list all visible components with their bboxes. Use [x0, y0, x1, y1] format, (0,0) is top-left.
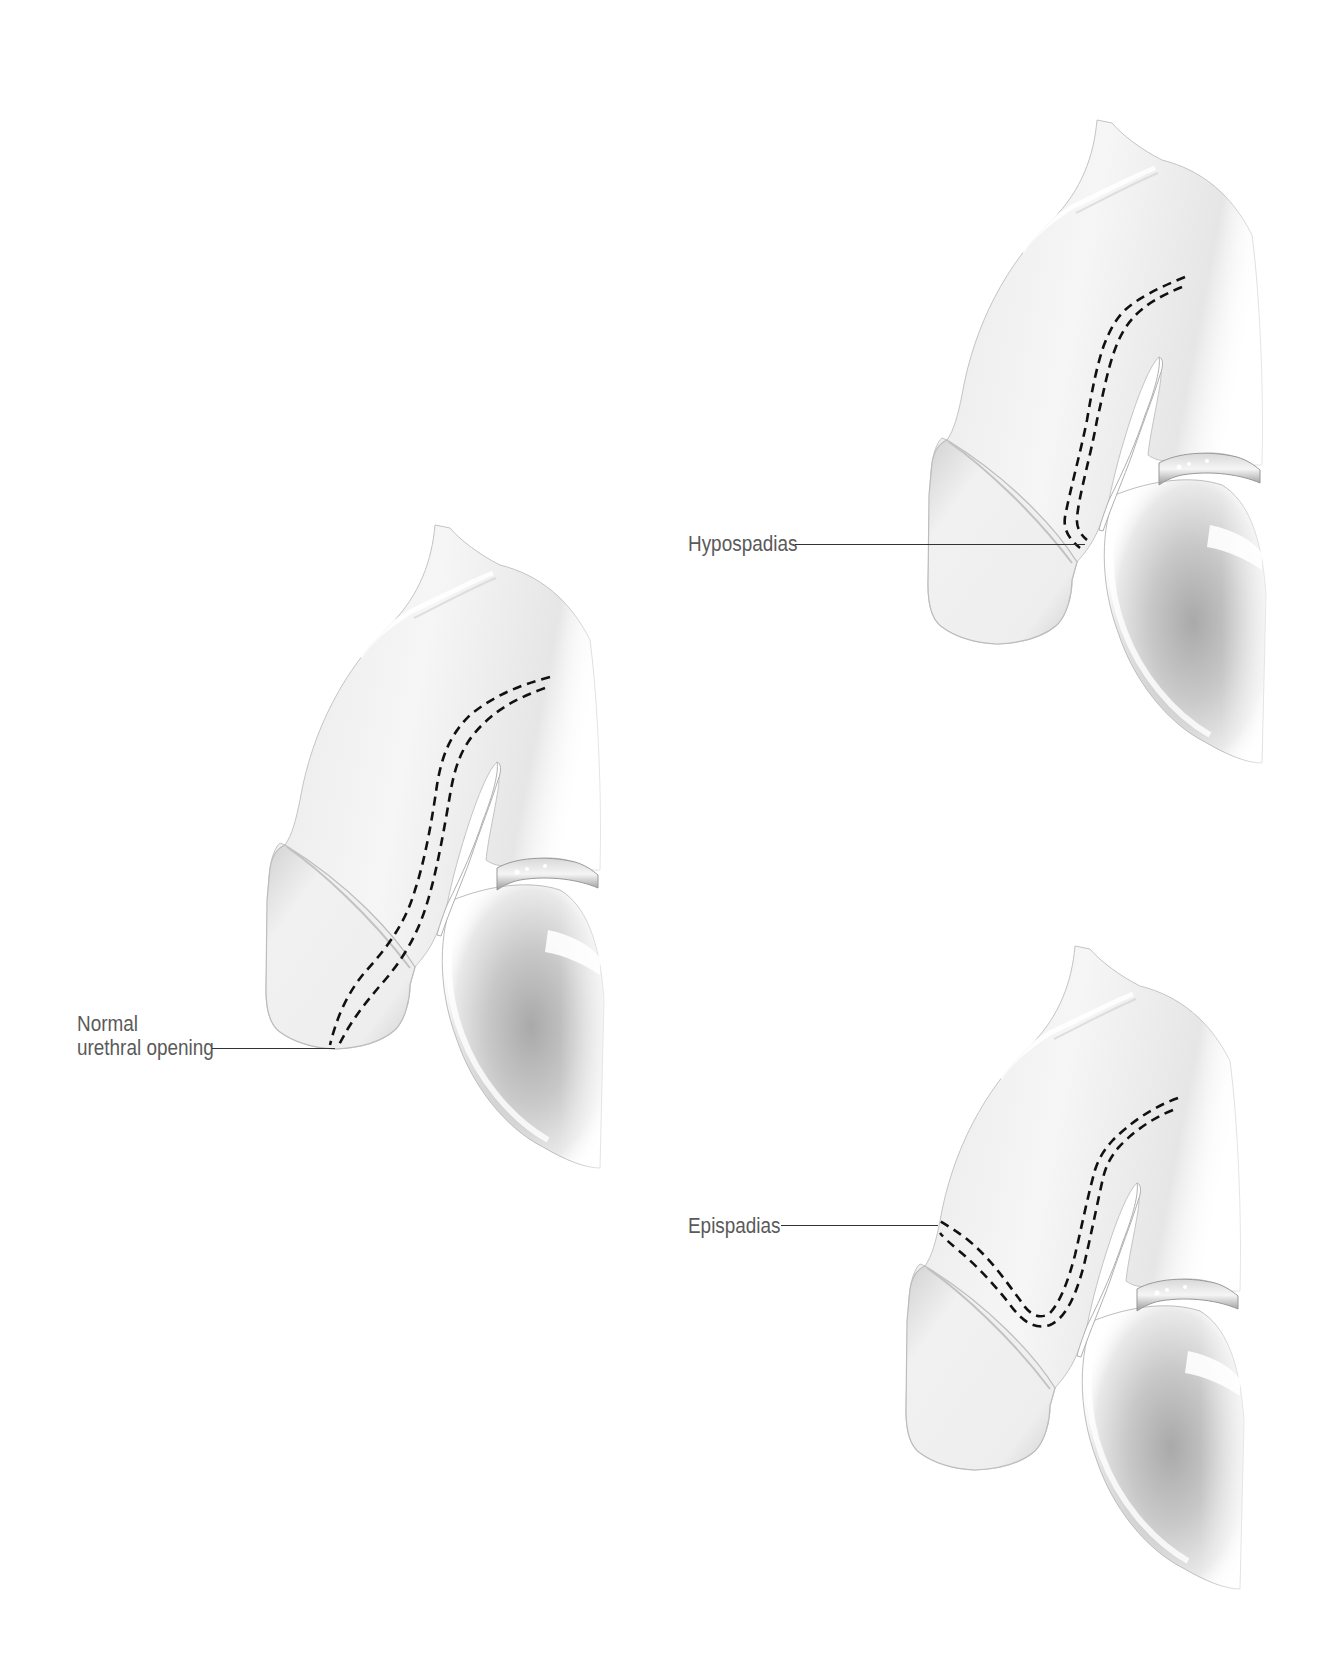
label-hypospadias: Hypospadias [688, 532, 797, 556]
label-line: Normal [77, 1012, 214, 1036]
organ-illustration [928, 120, 1292, 775]
leader-line-normal [212, 1048, 335, 1049]
illustration-canvas [0, 0, 1326, 1653]
figure-epispadias [906, 946, 1270, 1601]
leader-line-epispadias [781, 1225, 938, 1226]
leader-line-hypospadias [795, 544, 1085, 545]
label-line: Epispadias [688, 1214, 781, 1238]
label-normal-urethral-opening: Normal urethral opening [77, 1012, 214, 1060]
label-epispadias: Epispadias [688, 1214, 781, 1238]
organ-illustration [906, 946, 1270, 1601]
organ-illustration [266, 525, 630, 1180]
figure-normal [266, 525, 630, 1180]
figure-hypospadias [928, 120, 1292, 775]
label-line: urethral opening [77, 1036, 214, 1060]
label-line: Hypospadias [688, 532, 797, 556]
